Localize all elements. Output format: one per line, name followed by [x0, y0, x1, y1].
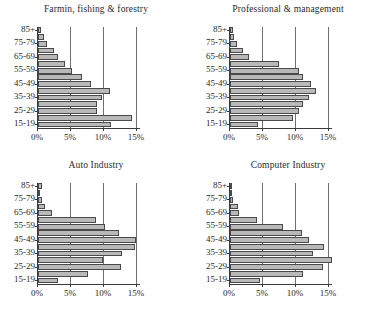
- y-axis-tick-label: 45-49: [14, 80, 38, 87]
- x-axis-tick-label: 5%: [64, 132, 76, 142]
- y-axis-tick-label: 65-69: [206, 53, 230, 60]
- bar-row: 65-69: [38, 54, 140, 61]
- bar-series: 85+75-7965-6955-5945-4935-3925-2915-19: [230, 183, 332, 284]
- bar-row: 65-69: [230, 54, 332, 61]
- bar: [38, 204, 45, 210]
- bar-row: 15-19: [38, 121, 140, 128]
- bar: [230, 244, 324, 250]
- y-axis-tick-label: 25-29: [206, 262, 230, 269]
- bar: [230, 210, 239, 216]
- bar: [38, 41, 47, 47]
- y-axis-tick-label: 15-19: [14, 120, 38, 127]
- bar-row: 85+: [38, 27, 140, 34]
- bar: [230, 61, 279, 67]
- x-axis-tick-label: 0%: [31, 132, 43, 142]
- y-axis-tick-label: 65-69: [14, 209, 38, 216]
- y-axis-tick-label: 75-79: [14, 39, 38, 46]
- bar-row: [38, 190, 140, 197]
- plot-area: 0%5%10%15%85+75-7965-6955-5945-4935-3925…: [37, 183, 140, 284]
- x-axis-tick-label: 5%: [64, 288, 76, 298]
- y-axis-tick-label: 85+: [21, 182, 38, 189]
- bar: [230, 217, 257, 223]
- bar: [38, 190, 40, 196]
- bar: [230, 257, 332, 263]
- x-axis-tick-label: 0%: [223, 288, 235, 298]
- bar-row: [38, 270, 140, 277]
- bar: [38, 74, 82, 80]
- bar: [230, 74, 303, 80]
- bar: [230, 204, 238, 210]
- y-axis-tick-label: 45-49: [206, 236, 230, 243]
- bar: [38, 210, 52, 216]
- y-axis-tick-label: 65-69: [206, 209, 230, 216]
- bar: [38, 34, 44, 40]
- chart-title: Auto Industry: [0, 160, 192, 170]
- bar-row: 55-59: [230, 67, 332, 74]
- bar-row: [38, 47, 140, 54]
- x-axis-tick-label: 10%: [287, 288, 304, 298]
- bar: [230, 183, 232, 189]
- bar-row: 75-79: [38, 196, 140, 203]
- x-axis-tick-label: 10%: [95, 132, 112, 142]
- y-axis-tick-label: 75-79: [14, 195, 38, 202]
- bar: [38, 68, 72, 74]
- bar-row: 45-49: [230, 81, 332, 88]
- bar-row: 35-39: [230, 94, 332, 101]
- bar-row: [230, 243, 332, 250]
- chart-title: Professional & management: [192, 4, 384, 14]
- bar: [38, 95, 102, 101]
- bar-row: 75-79: [230, 196, 332, 203]
- bar-row: [230, 270, 332, 277]
- bar-row: [38, 243, 140, 250]
- bar: [230, 115, 293, 121]
- x-axis-line: [229, 128, 332, 129]
- bar-row: 45-49: [38, 237, 140, 244]
- bar-row: [230, 34, 332, 41]
- y-axis-tick-label: 45-49: [206, 80, 230, 87]
- bar-row: 35-39: [38, 250, 140, 257]
- bar: [230, 48, 243, 54]
- chart-panel: Farmin, fishing & forestry0%5%10%15%85+7…: [0, 0, 192, 156]
- x-axis-tick-label: 0%: [223, 132, 235, 142]
- bar: [38, 230, 119, 236]
- x-axis-tick-label: 15%: [320, 132, 337, 142]
- y-axis-line: [37, 27, 38, 128]
- bar: [38, 257, 103, 263]
- y-axis-tick-label: 85+: [21, 26, 38, 33]
- x-axis-line: [37, 128, 140, 129]
- x-axis-tick-label: 15%: [320, 288, 337, 298]
- bar: [38, 48, 54, 54]
- bar: [38, 244, 135, 250]
- chart-panel: Professional & management0%5%10%15%85+75…: [192, 0, 384, 156]
- bar: [38, 264, 121, 270]
- y-axis-tick-label: 15-19: [206, 120, 230, 127]
- bar-row: [230, 47, 332, 54]
- y-axis-tick-label: 15-19: [206, 276, 230, 283]
- bar: [230, 81, 311, 87]
- bar-row: 65-69: [38, 210, 140, 217]
- bar-row: 25-29: [38, 108, 140, 115]
- bar: [230, 108, 299, 114]
- bar: [38, 88, 110, 94]
- plot-area: 0%5%10%15%85+75-7965-6955-5945-4935-3925…: [229, 27, 332, 128]
- y-axis-tick-label: 75-79: [206, 195, 230, 202]
- chart-panel: Auto Industry0%5%10%15%85+75-7965-6955-5…: [0, 156, 192, 312]
- bar: [230, 54, 249, 60]
- bar: [38, 237, 136, 243]
- bar-row: 35-39: [230, 250, 332, 257]
- y-axis-line: [229, 183, 230, 284]
- bar-row: [230, 87, 332, 94]
- bar: [230, 95, 309, 101]
- bar: [230, 224, 283, 230]
- x-axis-tick-label: 15%: [128, 288, 145, 298]
- bar-row: [230, 74, 332, 81]
- y-axis-line: [37, 183, 38, 284]
- bar-row: [230, 203, 332, 210]
- chart-title: Computer Industry: [192, 160, 384, 170]
- bar-row: 85+: [230, 183, 332, 190]
- bar-row: 55-59: [38, 67, 140, 74]
- bar-row: 55-59: [230, 223, 332, 230]
- bar-row: [230, 114, 332, 121]
- plot-area: 0%5%10%15%85+75-7965-6955-5945-4935-3925…: [37, 27, 140, 128]
- y-axis-tick-label: 35-39: [14, 93, 38, 100]
